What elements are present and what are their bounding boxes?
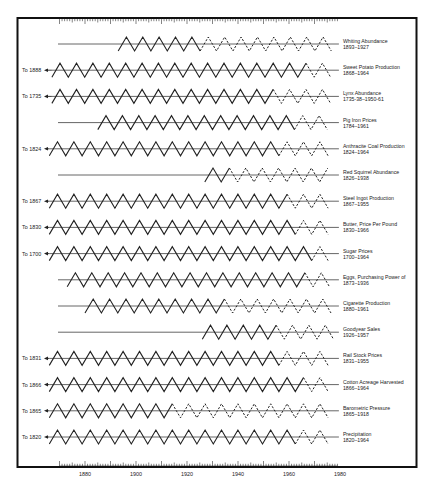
arrow-left-icon <box>44 383 48 387</box>
observed-cycle-line <box>205 168 230 182</box>
series-range-label: 1824–1964 <box>343 149 369 155</box>
series-range-label: 1865–1918 <box>343 411 369 417</box>
cycle-chart: 188019001920194019601980 Whiting Abundan… <box>0 0 430 485</box>
series-range-label: 1880–1961 <box>343 306 369 312</box>
series-range-label: 1826–1938 <box>343 175 369 181</box>
series-row: Cigarette Production1880–1961 <box>58 299 390 313</box>
year-label: 1880 <box>79 471 91 477</box>
series-row: To 1820Precipitation1820–1964 <box>22 430 372 444</box>
series-row: To 1865Barometric Pressure1865–1918 <box>22 404 390 418</box>
arrow-left-icon <box>44 409 48 413</box>
top-ruler <box>60 19 338 24</box>
series-range-label: 1873–1936 <box>343 280 369 286</box>
series-origin-label: To 1820 <box>22 434 41 440</box>
series-origin-label: To 1735 <box>22 93 41 99</box>
series-row: Goodyear Sales1926–1957 <box>58 325 381 339</box>
series-rows: Whiting Abundance1893–1927To 1888Sweet P… <box>22 37 406 444</box>
series-row: To 1831Rail Stock Prices1831–1955 <box>22 351 383 365</box>
series-row: Eggs, Purchasing Power of1873–1936 <box>58 273 406 287</box>
arrow-left-icon <box>44 252 48 256</box>
arrow-left-icon <box>44 95 48 99</box>
series-origin-label: To 1830 <box>22 224 41 230</box>
year-axis-labels: 188019001920194019601980 <box>79 471 346 477</box>
arrow-left-icon <box>44 226 48 230</box>
series-row: To 1700Sugar Prices1700–1964 <box>22 247 373 261</box>
series-row: To 1824Anthracite Coal Production1824–19… <box>22 142 405 156</box>
series-range-label: 1926–1957 <box>343 332 369 338</box>
arrow-left-icon <box>44 435 48 439</box>
year-label: 1980 <box>334 471 346 477</box>
series-origin-label: To 1888 <box>22 67 41 73</box>
series-row: To 1735Lynx Abundance1735-38–1950-61 <box>22 89 384 103</box>
series-origin-label: To 1824 <box>22 146 41 152</box>
series-row: Red Squirrel Abundance1826–1938 <box>58 168 399 182</box>
series-range-label: 1866–1964 <box>343 385 369 391</box>
arrow-left-icon <box>44 357 48 361</box>
series-range-label: 1820–1964 <box>343 437 369 443</box>
year-label: 1900 <box>130 471 142 477</box>
series-range-label: 1700–1964 <box>343 254 369 260</box>
series-range-label: 1735-38–1950-61 <box>343 96 384 102</box>
year-label: 1960 <box>283 471 295 477</box>
series-range-label: 1893–1927 <box>343 44 369 50</box>
arrow-left-icon <box>44 199 48 203</box>
series-row: Pig Iron Prices1784–1961 <box>58 116 377 130</box>
series-origin-label: To 1867 <box>22 198 41 204</box>
bottom-ruler <box>60 461 338 467</box>
chart-frame <box>18 18 417 467</box>
series-range-label: 1868–1964 <box>343 70 369 76</box>
year-label: 1940 <box>232 471 244 477</box>
series-row: To 1830Butter, Price Per Pound1830–1966 <box>22 220 397 234</box>
series-row: To 1867Steel Ingot Production1867–1955 <box>22 194 394 208</box>
series-origin-label: To 1831 <box>22 355 41 361</box>
observed-cycle-line <box>85 299 224 313</box>
series-origin-label: To 1866 <box>22 382 41 388</box>
series-origin-label: To 1865 <box>22 408 41 414</box>
series-origin-label: To 1700 <box>22 251 41 257</box>
series-range-label: 1784–1961 <box>343 123 369 129</box>
series-range-label: 1831–1955 <box>343 358 369 364</box>
arrow-left-icon <box>44 147 48 151</box>
arrow-left-icon <box>44 68 48 72</box>
series-row: Whiting Abundance1893–1927 <box>58 37 388 51</box>
year-label: 1920 <box>181 471 193 477</box>
series-row: To 1888Sweet Potato Production1868–1964 <box>22 63 400 77</box>
series-range-label: 1867–1955 <box>343 201 369 207</box>
series-range-label: 1830–1966 <box>343 227 369 233</box>
series-row: To 1866Cotton Acreage Harvested1866–1964 <box>22 378 404 392</box>
